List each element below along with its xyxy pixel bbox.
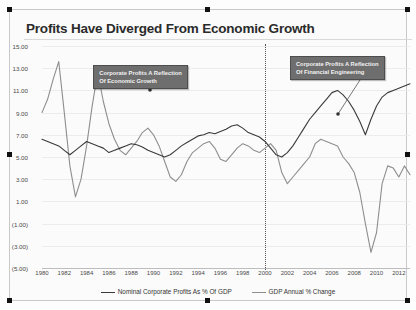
slide-canvas: Profits Have Diverged From Economic Grow… [0, 0, 416, 310]
selection-handle-middle-left[interactable] [7, 152, 12, 157]
chart-legend: Nominal Corporate Profits As % Of GDP GD… [10, 287, 416, 295]
callout-left[interactable]: Corporate Profits A Reflection Of Econom… [93, 65, 188, 89]
callout-left-line2: Of Economic Growth [99, 77, 182, 85]
x-axis-tick-label: 1998 [236, 270, 249, 276]
x-axis-line [42, 268, 410, 269]
y-axis-tick-label: 9.00 [0, 110, 28, 117]
y-axis-tick-label: 5.00 [0, 154, 28, 161]
x-axis-tick-label: 2004 [303, 270, 316, 276]
legend-item-gdp[interactable]: GDP Annual % Change [252, 288, 336, 295]
x-axis-tick-label: 2002 [281, 270, 294, 276]
x-axis-tick-label: 2000 [258, 270, 271, 276]
x-axis-tick-label: 1996 [214, 270, 227, 276]
y-axis-tick-label: 11.00 [0, 87, 28, 94]
selection-handle-bottom-middle[interactable] [205, 298, 210, 303]
chart-container[interactable]: Profits Have Diverged From Economic Grow… [9, 9, 407, 301]
x-axis-tick-label: 1990 [147, 270, 160, 276]
line-corporate-profits [42, 84, 410, 157]
callout-left-line1: Corporate Profits A Reflection [99, 69, 182, 77]
x-axis-tick-label: 1986 [102, 270, 115, 276]
y-axis-tick-label: (1.00) [0, 221, 28, 228]
x-axis-tick-label: 2006 [325, 270, 338, 276]
callout-leader-right [336, 80, 360, 116]
line-gdp-annual-change [42, 62, 410, 253]
x-axis-tick-label: 2010 [370, 270, 383, 276]
selection-handle-middle-right[interactable] [405, 152, 410, 157]
selection-handle-top-right[interactable] [405, 7, 410, 12]
x-axis-tick-label: 1992 [169, 270, 182, 276]
x-axis-tick-label: 2008 [348, 270, 361, 276]
selection-handle-bottom-left[interactable] [7, 298, 12, 303]
y-axis-tick-label: 15.00 [0, 43, 28, 50]
x-axis-tick-label: 1984 [80, 270, 93, 276]
y-axis-tick-label: 7.00 [0, 132, 28, 139]
selection-handle-top-middle[interactable] [205, 7, 210, 12]
y-axis-tick-label: 13.00 [0, 65, 28, 72]
y-axis-tick-label: 3.00 [0, 176, 28, 183]
legend-label-profits: Nominal Corporate Profits As % Of GDP [118, 288, 232, 295]
legend-swatch-gdp [252, 292, 266, 293]
x-axis-tick-label: 1994 [191, 270, 204, 276]
selection-handle-top-left[interactable] [7, 7, 12, 12]
x-axis-tick-label: 1980 [35, 270, 48, 276]
x-axis-tick-label: 1982 [58, 270, 71, 276]
y-axis-tick-label: (5.00) [0, 265, 28, 272]
legend-label-gdp: GDP Annual % Change [269, 288, 336, 295]
legend-item-profits[interactable]: Nominal Corporate Profits As % Of GDP [101, 288, 232, 295]
callout-right-line2: Of Financial Engineering [296, 68, 379, 76]
y-axis-tick-label: 1.00 [0, 198, 28, 205]
x-axis-tick-label: 2012 [392, 270, 405, 276]
callout-right-line1: Corporate Profits A Reflection [296, 60, 379, 68]
chart-title: Profits Have Diverged From Economic Grow… [26, 21, 315, 36]
callout-right[interactable]: Corporate Profits A Reflection Of Financ… [290, 56, 385, 80]
legend-swatch-profits [101, 292, 115, 293]
x-axis-tick-label: 1988 [125, 270, 138, 276]
selection-handle-bottom-right[interactable] [405, 298, 410, 303]
title-divider [24, 39, 412, 40]
y-axis-tick-label: (3.00) [0, 243, 28, 250]
